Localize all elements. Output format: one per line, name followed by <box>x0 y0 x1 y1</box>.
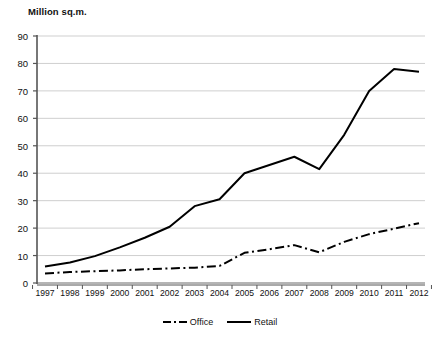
y-axis-line <box>33 35 37 284</box>
x-tick-label: 1998 <box>60 288 79 298</box>
legend-item-retail: Retail <box>227 316 277 327</box>
y-tick-label: 10 <box>2 250 28 261</box>
x-tick-label: 2006 <box>260 288 279 298</box>
x-tick-label: 2011 <box>385 288 403 298</box>
x-tick-label: 2003 <box>185 288 204 298</box>
legend-swatch-retail <box>227 318 251 326</box>
x-tick-label: 2002 <box>160 288 179 298</box>
legend-item-office: Office <box>163 316 213 327</box>
y-tick-label: 30 <box>2 195 28 206</box>
x-tick-label: 2008 <box>310 288 329 298</box>
y-tick-label: 50 <box>2 140 28 151</box>
x-tick-label: 1997 <box>35 288 54 298</box>
chart-figure: Million sq.m. 9080706050403020100 Office… <box>0 0 440 339</box>
x-tick-label: 2005 <box>235 288 254 298</box>
y-tick-label: 20 <box>2 223 28 234</box>
legend-label: Office <box>190 317 213 327</box>
x-tick-label: 2000 <box>110 288 129 298</box>
y-axis-tick-labels: 9080706050403020100 <box>0 0 28 339</box>
y-tick-label: 0 <box>2 278 28 289</box>
x-tick-label: 2009 <box>335 288 354 298</box>
gridlines <box>37 36 425 283</box>
x-tick-label: 2001 <box>135 288 154 298</box>
chart-title: Million sq.m. <box>28 6 87 17</box>
x-tick-label: 2007 <box>285 288 304 298</box>
x-tick-label: 1999 <box>85 288 104 298</box>
x-tick-label: 2004 <box>210 288 229 298</box>
series-line-office <box>45 223 419 273</box>
x-tick-label: 2012 <box>409 288 428 298</box>
chart-legend: OfficeRetail <box>0 316 440 327</box>
x-tick-label: 2010 <box>360 288 379 298</box>
y-tick-label: 90 <box>2 31 28 42</box>
y-tick-label: 80 <box>2 58 28 69</box>
legend-swatch-office <box>163 318 187 326</box>
y-tick-label: 70 <box>2 85 28 96</box>
y-tick-label: 60 <box>2 113 28 124</box>
legend-label: Retail <box>254 317 277 327</box>
y-tick-label: 40 <box>2 168 28 179</box>
